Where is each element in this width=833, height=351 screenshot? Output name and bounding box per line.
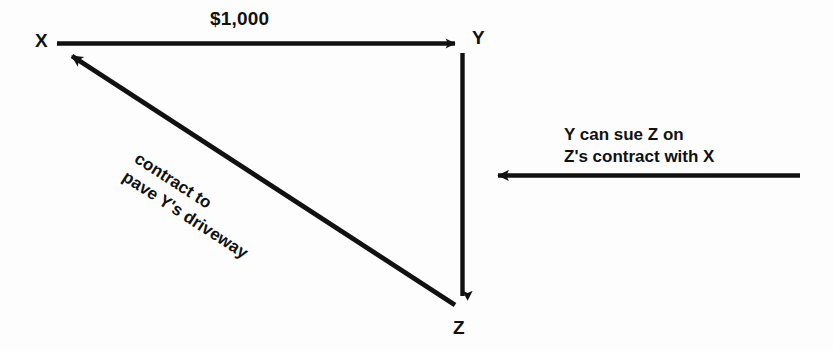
node-label-x: X [35, 31, 48, 50]
edge-label-suit-description: Y can sue Z on Z's contract with X [564, 124, 714, 169]
diagram-canvas: X Y Z $1,000 contract to pave Y's drivew… [0, 0, 833, 351]
edge-label-suit-line2: Z's contract with X [564, 146, 714, 168]
node-label-y: Y [472, 28, 485, 47]
edge-label-suit-line1: Y can sue Z on [564, 125, 684, 144]
edge-label-payment-amount: $1,000 [210, 8, 269, 30]
node-label-z: Z [453, 318, 465, 337]
